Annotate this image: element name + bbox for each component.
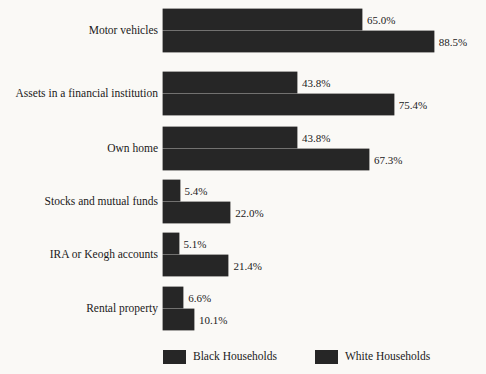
bar-value-label: 5.1%	[184, 239, 207, 250]
chart-legend: Black HouseholdsWhite Households	[0, 347, 486, 369]
grouped-bar-chart: Motor vehiclesAssets in a financial inst…	[0, 0, 486, 374]
bar-white-households	[163, 202, 230, 223]
bar-value-label: 43.8%	[302, 78, 330, 89]
legend-item-black-households[interactable]: Black Households	[163, 347, 277, 367]
legend-label: White Households	[345, 351, 430, 363]
bar-value-label: 75.4%	[399, 100, 427, 111]
category-label: Assets in a financial institution	[0, 88, 158, 100]
legend-label: Black Households	[193, 351, 277, 363]
bar-value-label: 22.0%	[235, 208, 263, 219]
bar-value-label: 67.3%	[374, 155, 402, 166]
bar-value-label: 88.5%	[439, 37, 467, 48]
bar-value-label: 65.0%	[367, 15, 395, 26]
legend-swatch-icon	[163, 350, 186, 364]
bar-white-households	[163, 149, 369, 170]
bar-value-label: 5.4%	[185, 186, 208, 197]
category-label: Rental property	[0, 303, 158, 315]
bar-white-households	[163, 255, 228, 276]
bar-value-label: 21.4%	[233, 261, 261, 272]
bar-white-households	[163, 94, 394, 115]
category-label: Motor vehicles	[0, 25, 158, 37]
category-label: Own home	[0, 143, 158, 155]
bar-black-households	[163, 9, 362, 30]
bar-white-households	[163, 309, 194, 330]
bar-black-households	[163, 72, 297, 93]
bar-value-label: 10.1%	[199, 315, 227, 326]
bar-black-households	[163, 233, 179, 254]
bar-black-households	[163, 180, 180, 201]
legend-item-white-households[interactable]: White Households	[315, 347, 430, 367]
bar-value-label: 43.8%	[302, 133, 330, 144]
bar-value-label: 6.6%	[188, 293, 211, 304]
legend-swatch-icon	[315, 350, 338, 364]
category-label: IRA or Keogh accounts	[0, 249, 158, 261]
bar-white-households	[163, 31, 434, 52]
bar-black-households	[163, 287, 183, 308]
bar-black-households	[163, 127, 297, 148]
category-label: Stocks and mutual funds	[0, 196, 158, 208]
